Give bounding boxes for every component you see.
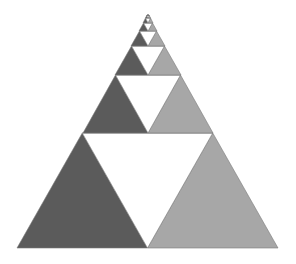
fractal-triangle-diagram [0,0,296,264]
level-7 [146,16,151,19]
